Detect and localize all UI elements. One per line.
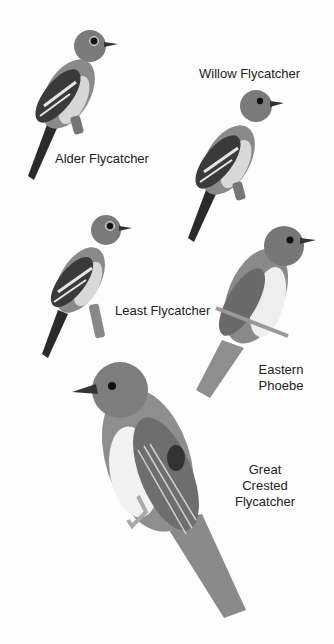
great-crested-flycatcher-label: Great Crested Flycatcher	[225, 462, 305, 510]
eastern-phoebe-label: Eastern Phoebe	[256, 362, 306, 394]
willow-flycatcher-label: Willow Flycatcher	[199, 66, 300, 82]
alder-flycatcher-label: Alder Flycatcher	[55, 151, 149, 167]
eastern-phoebe-label-line-2: Phoebe	[256, 378, 306, 394]
least-flycatcher-illustration	[36, 210, 136, 360]
great-crested-label-line-2: Crested	[225, 478, 305, 494]
great-crested-label-line-3: Flycatcher	[225, 494, 305, 510]
flycatcher-illustration-plate: Alder Flycatcher Willow Flycatcher	[0, 0, 334, 644]
eastern-phoebe-label-line-1: Eastern	[256, 362, 306, 378]
great-crested-label-line-1: Great	[225, 462, 305, 478]
